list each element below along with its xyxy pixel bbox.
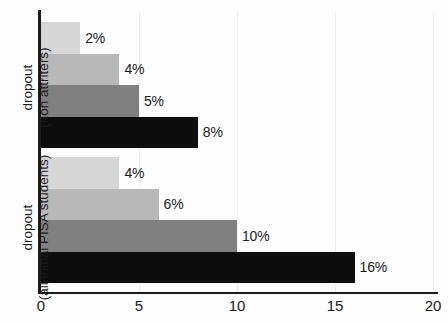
bar (41, 85, 139, 117)
bar (41, 220, 237, 252)
group-label-dropout-non-attriters: dropout (non attriters) (20, 28, 51, 148)
x-tick-label: 20 (425, 298, 442, 313)
bar-value-label: 4% (124, 166, 144, 180)
bar (41, 157, 119, 189)
x-tick-label: 15 (327, 298, 344, 313)
bar-value-label: 2% (85, 31, 105, 45)
bar-value-label: 6% (164, 197, 184, 211)
group-label-dropout-all-initial-pisa-students: dropout (all initial PISA students) (20, 138, 51, 318)
bar (41, 117, 198, 149)
bar-value-label: 4% (124, 62, 144, 76)
group-label-line-1: dropout (20, 138, 36, 318)
gridline-20 (433, 11, 434, 293)
bar (41, 252, 355, 284)
bar-value-label: 16% (360, 260, 387, 274)
bar-chart: 2%4%5%8%4%6%10%16% 05101520 dropout (non… (0, 0, 448, 323)
bar (41, 54, 119, 86)
bar (41, 189, 159, 221)
x-tick-label: 5 (135, 298, 143, 313)
group-label-line-1: dropout (20, 28, 36, 148)
x-tick-label: 10 (229, 298, 246, 313)
bar-value-label: 8% (203, 125, 223, 139)
x-axis-line (38, 292, 438, 294)
group-label-line-2: (non attriters) (36, 28, 52, 148)
bar-value-label: 10% (242, 229, 269, 243)
group-label-line-2: (all initial PISA students) (36, 138, 52, 318)
bar-value-label: 5% (144, 94, 164, 108)
